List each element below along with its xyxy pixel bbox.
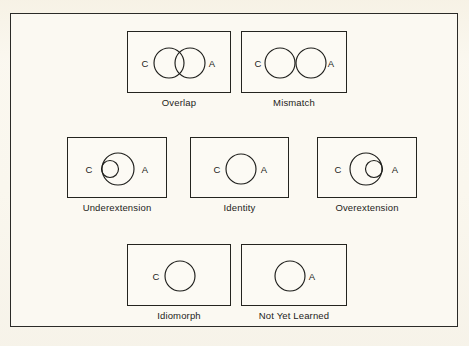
panel-group-not-yet-learned: A Not Yet Learned [241,244,347,321]
venn-diagram-identity: C A [191,138,290,199]
caption-underextension: Underextension [83,203,152,213]
venn-diagram-idiomorph: C [128,245,232,307]
label-child-c: C [335,164,342,175]
panel-box-not-yet-learned: A [241,244,347,306]
label-child-c: C [86,164,93,175]
venn-diagram-mismatch: C A [242,32,348,94]
circle-adult [275,261,305,291]
label-child-c: C [142,58,149,69]
panel-group-overextension: C A Overextension [317,137,417,213]
circle-child [165,261,195,291]
panel-box-overlap: C A [127,31,231,93]
label-child-c: C [214,164,221,175]
figure-outer-frame: C A Overlap C A Mismatch [10,13,458,327]
panel-box-identity: C A [190,137,289,198]
caption-idiomorph: Idiomorph [157,311,201,321]
venn-diagram-overlap: C A [128,32,232,94]
figure-root: C A Overlap C A Mismatch [0,0,469,346]
label-adult-a: A [261,164,268,175]
label-child-c: C [255,58,262,69]
label-adult-a: A [328,58,335,69]
circle-adult [175,48,205,78]
label-adult-a: A [309,271,316,282]
caption-overextension: Overextension [335,203,398,213]
panel-group-underextension: C A Underextension [67,137,167,213]
circle-child [102,161,119,178]
venn-diagram-overextension: C A [318,138,418,199]
circle-child [265,48,295,78]
panel-box-overextension: C A [317,137,417,198]
panel-group-identity: C A Identity [190,137,289,213]
caption-mismatch: Mismatch [273,98,315,108]
label-child-c: C [153,271,160,282]
label-adult-a: A [142,164,149,175]
label-adult-a: A [209,58,216,69]
caption-identity: Identity [224,203,256,213]
circle-adult [296,48,326,78]
panel-group-overlap: C A Overlap [127,31,231,108]
circle-shared [226,154,256,184]
venn-diagram-underextension: C A [68,138,168,199]
caption-not-yet-learned: Not Yet Learned [259,311,329,321]
panel-box-underextension: C A [67,137,167,198]
panel-group-mismatch: C A Mismatch [241,31,347,108]
label-adult-a: A [392,164,399,175]
panel-box-idiomorph: C [127,244,231,306]
panel-group-idiomorph: C Idiomorph [127,244,231,321]
venn-diagram-not-yet-learned: A [242,245,348,307]
caption-overlap: Overlap [162,98,196,108]
circle-adult [366,161,383,178]
panel-box-mismatch: C A [241,31,347,93]
